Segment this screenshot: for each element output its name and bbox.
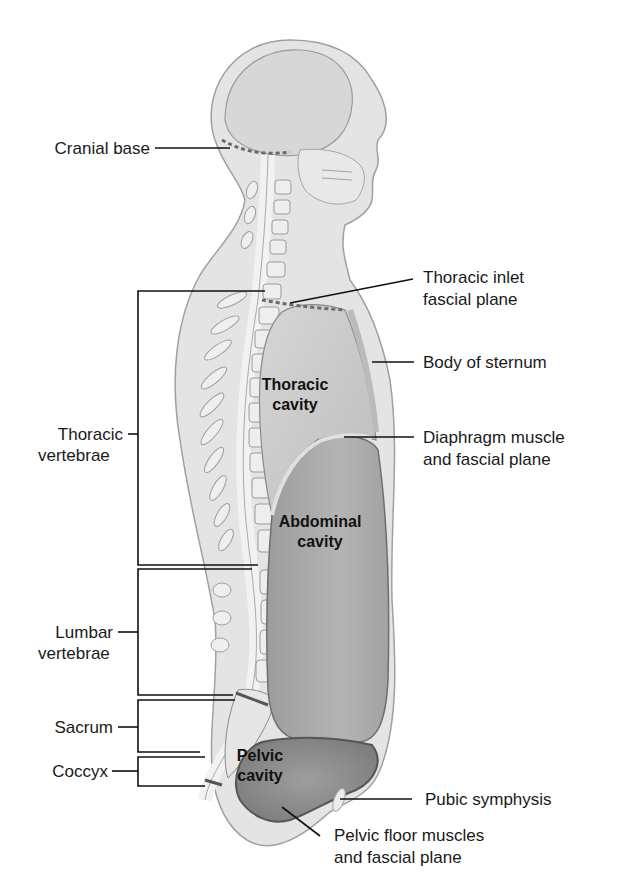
pelvic-cavity-line2: cavity — [220, 766, 300, 786]
label-body-of-sternum: Body of sternum — [423, 352, 547, 373]
label-diaphragm-line1: Diaphragm muscle — [423, 427, 565, 448]
thoracic-cavity-line1: Thoracic — [250, 375, 340, 395]
label-coccyx: Coccyx — [5, 761, 108, 782]
label-thoracic-inlet-line2: fascial plane — [423, 289, 518, 310]
label-thoracic-vertebrae-line1: Thoracic — [5, 424, 123, 445]
abdominal-cavity-line2: cavity — [270, 532, 370, 552]
label-abdominal-cavity: Abdominal cavity — [270, 512, 370, 552]
label-thoracic-inlet-line1: Thoracic inlet — [423, 267, 524, 288]
abdominal-cavity-line1: Abdominal — [270, 512, 370, 532]
bracket-coccyx — [138, 757, 205, 786]
label-pubic-symphysis: Pubic symphysis — [425, 789, 552, 810]
pelvic-cavity-line1: Pelvic — [220, 746, 300, 766]
label-lumbar-vertebrae-line1: Lumbar — [5, 622, 113, 643]
label-diaphragm-line2: and fascial plane — [423, 449, 551, 470]
label-thoracic-vertebrae-line2: vertebrae — [38, 445, 110, 466]
label-pelvic-cavity: Pelvic cavity — [220, 746, 300, 786]
label-sacrum: Sacrum — [5, 717, 113, 738]
label-lumbar-vertebrae-line2: vertebrae — [38, 643, 110, 664]
label-cranial-base: Cranial base — [5, 138, 150, 159]
thoracic-cavity-line2: cavity — [250, 395, 340, 415]
label-pelvic-floor-line1: Pelvic floor muscles — [334, 825, 484, 846]
label-pelvic-floor-line2: and fascial plane — [334, 847, 462, 868]
label-thoracic-cavity: Thoracic cavity — [250, 375, 340, 415]
